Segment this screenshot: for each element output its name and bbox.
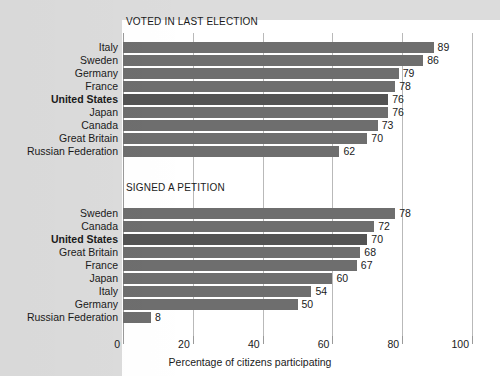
bar-value-label: 72 [378, 221, 390, 232]
bar-row: France67 [0, 259, 500, 272]
bar-row: Sweden78 [0, 207, 500, 220]
bar-track: 73 [123, 120, 472, 131]
category-label: Germany [0, 67, 118, 80]
bar-row: Sweden86 [0, 54, 500, 67]
bar-value-label: 50 [302, 299, 314, 310]
bar-track: 78 [123, 208, 472, 219]
x-tick-label-60: 60 [318, 338, 333, 350]
bar [123, 94, 388, 105]
bar-value-label: 70 [371, 234, 383, 245]
x-axis: 020406080100 [123, 336, 472, 352]
category-label: France [0, 80, 118, 93]
bar-value-label: 76 [392, 107, 404, 118]
bar-value-label: 76 [392, 94, 404, 105]
bar [123, 234, 367, 245]
x-tick-label-100: 100 [451, 338, 472, 350]
bar [123, 55, 423, 66]
panel-title-petition: SIGNED A PETITION [126, 182, 225, 193]
bar [123, 120, 378, 131]
category-label: Italy [0, 41, 118, 54]
bar-track: 68 [123, 247, 472, 258]
bar-track: 54 [123, 286, 472, 297]
bar-value-label: 62 [343, 146, 355, 157]
bar-row: Canada73 [0, 119, 500, 132]
bar-value-label: 89 [438, 42, 450, 53]
bar-track: 89 [123, 42, 472, 53]
category-label: Japan [0, 106, 118, 119]
bar-row: France78 [0, 80, 500, 93]
x-tick-mark-80 [402, 336, 403, 344]
bar-track: 8 [123, 312, 472, 323]
bar [123, 286, 311, 297]
bar-rows-petition: Sweden78Canada72United States70Great Bri… [0, 207, 500, 324]
panel-title-voted: VOTED IN LAST ELECTION [126, 16, 258, 27]
x-tick-label-40: 40 [248, 338, 263, 350]
bar-value-label: 78 [399, 81, 411, 92]
bar [123, 146, 339, 157]
bar-row: Italy89 [0, 41, 500, 54]
x-tick-label-0: 0 [114, 338, 123, 350]
category-label: Great Britain [0, 246, 118, 259]
category-label: Canada [0, 220, 118, 233]
bar-value-label: 86 [427, 55, 439, 66]
bar-track: 70 [123, 133, 472, 144]
bar [123, 42, 434, 53]
category-label: United States [0, 233, 118, 246]
category-label: Canada [0, 119, 118, 132]
bar-row: Italy54 [0, 285, 500, 298]
x-tick-mark-40 [263, 336, 264, 344]
bar-row: Japan76 [0, 106, 500, 119]
category-label: Germany [0, 298, 118, 311]
x-tick-mark-60 [332, 336, 333, 344]
bar-row: Germany79 [0, 67, 500, 80]
x-tick-mark-100 [472, 336, 473, 344]
bar-row: Germany50 [0, 298, 500, 311]
x-tick-mark-0 [123, 336, 124, 344]
category-label: Japan [0, 272, 118, 285]
category-label: Russian Federation [0, 145, 118, 158]
bar-value-label: 68 [364, 247, 376, 258]
bar-track: 72 [123, 221, 472, 232]
category-label: Russian Federation [0, 311, 118, 324]
bar [123, 273, 332, 284]
bar [123, 260, 357, 271]
bar-track: 50 [123, 299, 472, 310]
bar-row: Great Britain70 [0, 132, 500, 145]
bar [123, 208, 395, 219]
bar-track: 86 [123, 55, 472, 66]
bar [123, 247, 360, 258]
bar-track: 62 [123, 146, 472, 157]
bar-row: Japan60 [0, 272, 500, 285]
x-tick-label-80: 80 [388, 338, 403, 350]
bar-row: Great Britain68 [0, 246, 500, 259]
bar [123, 299, 298, 310]
bar [123, 312, 151, 323]
bar-row: Canada72 [0, 220, 500, 233]
bar-track: 78 [123, 81, 472, 92]
category-label: France [0, 259, 118, 272]
bar-track: 67 [123, 260, 472, 271]
bar [123, 81, 395, 92]
bar-value-label: 60 [336, 273, 348, 284]
bar-value-label: 54 [315, 286, 327, 297]
x-axis-label: Percentage of citizens participating [0, 356, 500, 368]
category-label: Sweden [0, 207, 118, 220]
category-label: Italy [0, 285, 118, 298]
bar-value-label: 73 [382, 120, 394, 131]
bar-track: 76 [123, 94, 472, 105]
bar-row: United States76 [0, 93, 500, 106]
bar [123, 221, 374, 232]
bar-row: Russian Federation62 [0, 145, 500, 158]
bar-track: 79 [123, 68, 472, 79]
x-tick-label-20: 20 [178, 338, 193, 350]
bar-value-label: 78 [399, 208, 411, 219]
bar [123, 107, 388, 118]
bar-track: 70 [123, 234, 472, 245]
bar-track: 76 [123, 107, 472, 118]
bar-track: 60 [123, 273, 472, 284]
bar-rows-voted: Italy89Sweden86Germany79France78United S… [0, 41, 500, 158]
bar-row: United States70 [0, 233, 500, 246]
category-label: Sweden [0, 54, 118, 67]
category-label: United States [0, 93, 118, 106]
bar-value-label: 67 [361, 260, 373, 271]
